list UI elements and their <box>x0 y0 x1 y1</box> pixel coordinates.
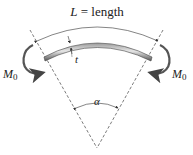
curved-beam-diagram: t L = length M0 M0 α <box>0 0 193 155</box>
angle-label: α <box>94 95 100 107</box>
length-dimension-arc <box>37 27 158 41</box>
right-moment-arrow-icon <box>151 45 169 74</box>
length-label: L = length <box>69 4 124 19</box>
moment-right-label: M0 <box>171 67 187 82</box>
left-moment-arrow-icon <box>24 45 42 74</box>
curved-beam <box>44 43 152 61</box>
moment-left-label: M0 <box>2 67 18 82</box>
thickness-label: t <box>75 53 79 65</box>
